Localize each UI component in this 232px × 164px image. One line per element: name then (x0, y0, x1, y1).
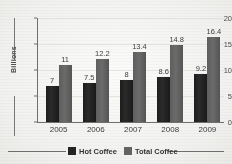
legend-rule-left (8, 151, 66, 152)
bar-group: 813.4 (120, 18, 146, 122)
bar-total-coffee-2008 (170, 45, 183, 122)
bar-total-coffee-2006 (96, 59, 109, 122)
plot-area: 7117.512.2813.48.614.89.216.4 (38, 18, 224, 122)
bar-value-label: 7 (50, 76, 54, 85)
x-axis-tick-label: 2005 (50, 125, 68, 134)
bar-value-label: 12.2 (95, 49, 110, 58)
bar-hot-coffee-2009 (194, 74, 207, 122)
x-axis-line (37, 122, 224, 123)
legend-swatch-icon (124, 147, 132, 155)
bar-group: 711 (46, 18, 72, 122)
bar-value-label: 8.6 (158, 67, 168, 76)
bar-value-label: 8 (124, 70, 128, 79)
y-axis-label-rule-bottom (14, 96, 15, 136)
bar-value-label: 16.4 (207, 27, 222, 36)
x-axis-tick-label: 2008 (161, 125, 179, 134)
bar-total-coffee-2009 (207, 37, 220, 122)
x-axis-tick-label: 2007 (124, 125, 142, 134)
legend-items: Hot CoffeeTotal Coffee (68, 145, 178, 157)
chart-legend: Hot CoffeeTotal Coffee (0, 145, 232, 157)
legend-label: Hot Coffee (79, 147, 117, 156)
legend-swatch-icon (68, 147, 76, 155)
legend-item-total-coffee[interactable]: Total Coffee (124, 147, 178, 156)
bar-hot-coffee-2008 (157, 77, 170, 122)
bar-value-label: 9.2 (196, 64, 206, 73)
bar-value-label: 13.4 (132, 42, 147, 51)
bar-group: 9.216.4 (194, 18, 220, 122)
legend-label: Total Coffee (135, 147, 178, 156)
bar-value-label: 11 (61, 55, 69, 64)
bar-group: 7.512.2 (83, 18, 109, 122)
legend-item-hot-coffee[interactable]: Hot Coffee (68, 147, 117, 156)
bar-total-coffee-2005 (59, 65, 72, 122)
bar-hot-coffee-2005 (46, 86, 59, 122)
x-axis-tick-label: 2006 (87, 125, 105, 134)
bar-group: 8.614.8 (157, 18, 183, 122)
bar-value-label: 7.5 (84, 73, 94, 82)
y-axis-title: Billions (10, 30, 17, 90)
bar-hot-coffee-2007 (120, 80, 133, 122)
bar-hot-coffee-2006 (83, 83, 96, 122)
bar-chart: Billions 05101520 7117.512.2813.48.614.8… (0, 0, 232, 164)
bar-value-label: 14.8 (169, 35, 184, 44)
x-axis-tick-label: 2009 (198, 125, 216, 134)
bar-total-coffee-2007 (133, 52, 146, 122)
